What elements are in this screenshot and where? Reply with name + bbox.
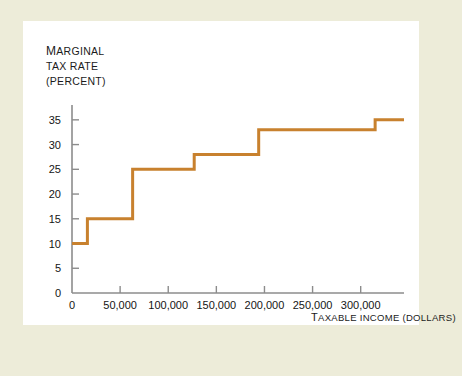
x-tick-label: 100,000 — [148, 299, 188, 311]
x-tick-label: 250,000 — [293, 299, 333, 311]
y-tick-label-group: 05101520253035 — [49, 114, 61, 299]
x-tick-label: 150,000 — [196, 299, 236, 311]
step-line-series — [72, 120, 404, 244]
y-tick-label: 10 — [49, 238, 61, 250]
y-tick-label: 30 — [49, 139, 61, 151]
figure-chart-marginal-tax-rate: MARGINAL TAX RATE (PERCENT) TAXABLE INCO… — [0, 0, 462, 376]
y-tick-group — [72, 120, 79, 268]
x-tick-label: 0 — [69, 299, 75, 311]
x-tick-label: 200,000 — [245, 299, 285, 311]
y-tick-label: 5 — [55, 262, 61, 274]
y-tick-label: 35 — [49, 114, 61, 126]
y-tick-label: 25 — [49, 163, 61, 175]
x-tick-label: 50,000 — [103, 299, 137, 311]
y-tick-label: 20 — [49, 188, 61, 200]
x-tick-label: 300,000 — [341, 299, 381, 311]
chart-svg: 05101520253035 050,000100,000150,000200,… — [0, 0, 462, 376]
x-tick-group — [120, 286, 361, 293]
y-tick-label: 0 — [55, 287, 61, 299]
x-tick-label-group: 050,000100,000150,000200,000250,000300,0… — [69, 299, 381, 311]
y-tick-label: 15 — [49, 213, 61, 225]
